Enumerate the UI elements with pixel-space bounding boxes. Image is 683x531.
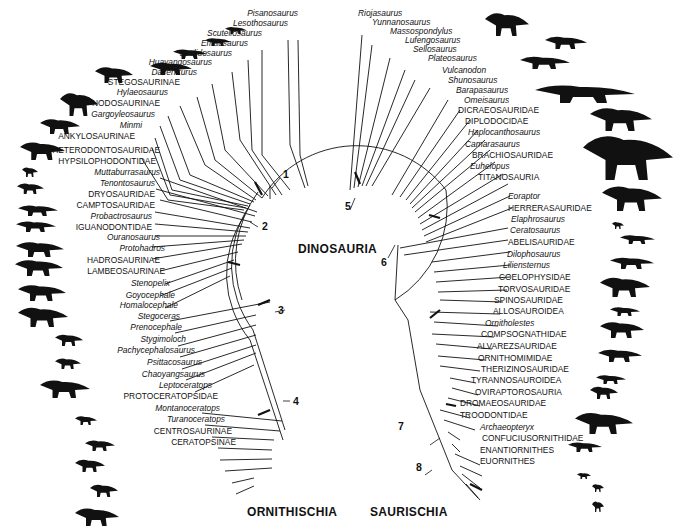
taxon-label: EUORNITHES: [480, 456, 535, 466]
pachycephalosaur-silhouette-icon: [40, 378, 90, 398]
theropod-silhouette-icon: [598, 348, 642, 362]
taxon-label: Vulcanodon: [442, 65, 486, 75]
theropod-silhouette-icon: [600, 275, 650, 297]
ornithischia-label: ORNITHISCHIA: [247, 505, 337, 519]
taxon-label: DRYOSAURIDAE: [88, 189, 155, 199]
taxon-label: Liliensternus: [503, 260, 550, 270]
taxon-label: Omeisaurus: [464, 95, 509, 105]
node-6-label: 6: [381, 256, 387, 268]
taxon-label: Archaeopteryx: [480, 422, 534, 432]
taxon-label: ENANTIORNITHES: [480, 445, 554, 455]
taxon-label: HERRERASAURIDAE: [508, 203, 592, 213]
taxon-label: Minmi: [120, 120, 142, 130]
taxon-label: Stenopelix: [131, 278, 170, 288]
theropod-silhouette-icon: [620, 230, 655, 240]
taxon-label: HADROSAURINAE: [87, 255, 160, 265]
taxon-label: Protohadros: [119, 243, 165, 253]
taxon-label: CENTROSAURINAE: [154, 426, 232, 436]
theropod-silhouette-icon: [610, 255, 654, 268]
small-theropod-silhouette-icon: [612, 215, 624, 223]
taxon-label: THERIZINOSAURIDAE: [481, 364, 569, 374]
taxon-label: COMPSOGNATHIDAE: [481, 329, 566, 339]
taxon-label: Camarasaurus: [465, 139, 520, 149]
taxon-label: Ceratosaurus: [510, 225, 560, 235]
taxon-label: Euhelopus: [470, 161, 510, 171]
taxon-label: Ouranosaurus: [107, 232, 160, 242]
prosauropod-silhouette-icon: [545, 35, 587, 49]
taxon-label: NODOSAURINAE: [92, 98, 160, 108]
taxon-label: CERATOPSINAE: [171, 437, 236, 447]
stegosaur-silhouette-icon: [60, 90, 98, 116]
taxon-label: Pachycephalosaurus: [117, 345, 195, 355]
taxon-label: Goyocephale: [126, 290, 175, 300]
small-ornithopod-silhouette-icon: [22, 163, 38, 174]
hadrosaur-silhouette-icon: [18, 283, 66, 301]
taxon-label: SPINOSAURIDAE: [494, 295, 563, 305]
taxon-label: Barapasaurus: [456, 85, 508, 95]
sauropod-silhouette-icon: [520, 55, 570, 69]
tyrannosaur-silhouette-icon: [575, 410, 633, 434]
taxon-label: ALVAREZSAURIDAE: [477, 341, 557, 351]
taxon-label: Stygimoloch: [140, 334, 186, 344]
taxon-label: Homalocephale: [120, 300, 178, 310]
taxon-label: DICRAEOSAURIDAE: [458, 105, 539, 115]
ornithopod-silhouette-icon: [150, 61, 192, 75]
hadrosaur-silhouette-icon: [18, 305, 68, 327]
taxon-label: Leptoceratops: [159, 380, 212, 390]
small-theropod-like-silhouette-icon: [205, 32, 231, 41]
small-theropod-like-silhouette-icon: [225, 20, 247, 28]
node-5-label: 5: [345, 200, 351, 212]
node-3-label: 3: [278, 304, 284, 316]
node-8-label: 8: [416, 461, 422, 473]
ornithopod-silhouette-icon: [16, 240, 64, 257]
ankylosaur-silhouette-icon: [40, 117, 80, 134]
bird-silhouette-icon: [592, 478, 604, 487]
taxon-label: ALLOSAUROIDEA: [493, 306, 564, 316]
taxon-label: IGUANODONTIDAE: [76, 222, 152, 232]
taxon-label: Eoraptor: [508, 191, 540, 201]
taxon-label: Muttaburrasaurus: [94, 167, 160, 177]
sauropod-silhouette-icon: [602, 183, 662, 211]
taxon-label: OVIRAPTOROSAURIA: [475, 387, 562, 397]
taxon-label: DIPLODOCIDAE: [465, 116, 528, 126]
taxon-label: Turanoceratops: [167, 414, 225, 424]
taxon-label: Chaoyangsaurus: [142, 369, 205, 379]
taxon-label: Psittacosaurus: [147, 357, 202, 367]
small-ornithopod-silhouette-icon: [17, 180, 44, 192]
bird-silhouette-icon: [577, 465, 591, 472]
theropod-silhouette-icon: [600, 320, 644, 338]
taxon-label: Stegoceras: [138, 311, 180, 321]
prosauropod-silhouette-icon: [485, 10, 529, 36]
taxon-label: Montanoceratops: [155, 403, 220, 413]
ankylosaur-silhouette-icon: [20, 140, 65, 160]
saurischia-label: SAURISCHIA: [370, 505, 448, 519]
taxon-label: TORVOSAURIDAE: [498, 284, 570, 294]
taxon-label: DROMAEOSAURIDAE: [460, 398, 546, 408]
taxon-label: TYRANNOSAUROIDEA: [471, 375, 561, 385]
taxon-label: Gargoyleosaurus: [91, 109, 155, 119]
iguanodont-silhouette-icon: [15, 258, 63, 276]
node-1-label: 1: [283, 168, 289, 180]
node-7-label: 7: [398, 420, 404, 432]
stegosaur-silhouette-icon: [95, 65, 133, 83]
theropod-silhouette-icon: [590, 385, 618, 399]
pachycephalosaur-silhouette-icon: [55, 355, 81, 367]
taxon-label: TROODONTIDAE: [460, 410, 527, 420]
pachycephalosaur-silhouette-icon: [55, 332, 83, 345]
ornithopod-silhouette-icon: [16, 218, 56, 230]
ceratopsian-silhouette-icon: [75, 458, 105, 472]
taxon-label: Prenocephale: [130, 322, 182, 332]
taxon-label: Shunosaurus: [448, 75, 497, 85]
taxon-label: CAMPTOSAURIDAE: [77, 200, 156, 210]
taxon-label: Dilophosaurus: [507, 249, 561, 259]
taxon-label: Hylaeosaurus: [117, 87, 168, 97]
taxon-label: COELOPHYSIDAE: [499, 272, 571, 282]
theropod-silhouette-icon: [610, 302, 640, 312]
taxon-label: Plateosaurus: [428, 53, 477, 63]
taxon-label: BRACHIOSAURIDAE: [472, 150, 553, 160]
taxon-label: Elaphrosaurus: [511, 214, 565, 224]
theropod-silhouette-icon: [596, 370, 626, 380]
ceratopsian-silhouette-icon: [85, 437, 115, 449]
ceratopsid-silhouette-icon: [75, 506, 119, 526]
taxon-label: Pisanosaurus: [247, 8, 298, 18]
